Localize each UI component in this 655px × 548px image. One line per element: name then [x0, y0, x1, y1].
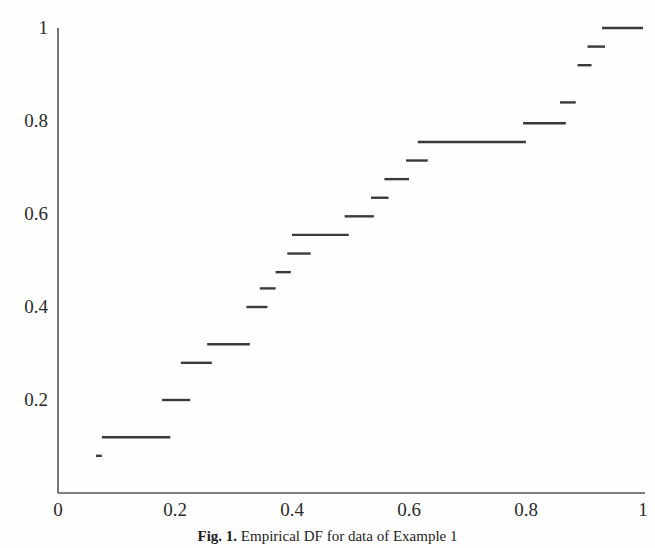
step-segments: [96, 28, 643, 456]
x-tick-label-1: 1: [629, 500, 655, 519]
y-tick-label-0_4: 0.4: [4, 297, 48, 316]
x-tick-label-0: 0: [44, 500, 72, 519]
figure-caption: Fig. 1. Empirical DF for data of Example…: [0, 528, 655, 548]
x-tick-label-0_2: 0.2: [161, 500, 189, 519]
y-tick-label-1: 1: [4, 18, 48, 37]
caption-text: Empirical DF for data of Example 1: [241, 528, 458, 544]
x-tick-label-0_4: 0.4: [278, 500, 306, 519]
x-tick-label-0_8: 0.8: [512, 500, 540, 519]
y-tick-label-0_8: 0.8: [4, 111, 48, 130]
y-tick-label-0_6: 0.6: [4, 204, 48, 223]
y-tick-label-0_2: 0.2: [4, 390, 48, 409]
axes: [58, 28, 645, 493]
caption-label: Fig. 1.: [198, 528, 238, 544]
figure-container: 1 0.8 0.6 0.4 0.2 0 0.2 0.4 0.6 0.8 1 Fi…: [0, 0, 655, 548]
x-tick-label-0_6: 0.6: [395, 500, 423, 519]
ecdf-plot: [0, 0, 655, 548]
